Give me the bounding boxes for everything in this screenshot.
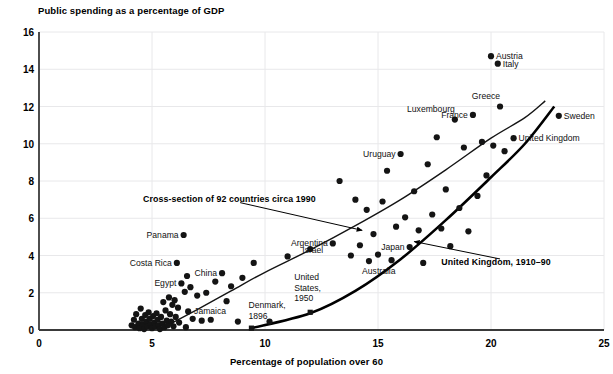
point-label-sweden: Sweden: [564, 111, 595, 121]
data-point: [167, 311, 173, 317]
point-label-china: China: [195, 268, 217, 278]
data-point: [190, 316, 196, 322]
data-point: [474, 193, 480, 199]
data-point: [166, 294, 172, 300]
point-label-uruguay: Uruguay: [363, 149, 395, 159]
data-point: [411, 188, 417, 194]
data-point: [133, 311, 139, 317]
point-label-greece: Greece: [472, 91, 500, 101]
point-label-france: France: [441, 110, 468, 120]
uk-marker: [308, 310, 313, 315]
data-point: [488, 53, 494, 59]
data-point: [178, 280, 184, 286]
data-point: [490, 143, 496, 149]
point-label-panama: Panama: [147, 230, 179, 240]
data-point: [384, 168, 390, 174]
data-point: [510, 135, 516, 141]
data-point: [336, 178, 342, 184]
annotation-uk: United Kingdom, 1910–90: [441, 257, 550, 268]
data-point: [208, 317, 214, 323]
point-label-japan: Japan: [381, 242, 404, 252]
data-point: [497, 103, 503, 109]
data-point: [398, 151, 404, 157]
data-point: [443, 186, 449, 192]
data-point: [420, 260, 426, 266]
data-point: [158, 314, 164, 320]
data-point: [239, 275, 245, 281]
point-label-united-kingdom: United Kingdom: [519, 133, 580, 143]
data-point: [348, 252, 354, 258]
annotation-cross-section: Cross-section of 92 countries circa 1990: [143, 194, 316, 205]
data-point: [199, 318, 205, 324]
data-point: [501, 148, 507, 154]
data-point: [456, 205, 462, 211]
data-point: [352, 197, 358, 203]
data-point: [212, 278, 218, 284]
data-point: [172, 297, 178, 303]
annotation-arrow-cross-section: [240, 203, 362, 231]
data-point: [556, 113, 562, 119]
data-point: [495, 61, 501, 67]
point-label-australia: Australia: [362, 266, 395, 276]
data-point: [184, 273, 190, 279]
point-label-costa-rica: Costa Rica: [130, 258, 172, 268]
data-point: [402, 214, 408, 220]
data-point: [176, 319, 182, 325]
data-point: [461, 144, 467, 150]
data-point: [194, 292, 200, 298]
data-point: [187, 284, 193, 290]
data-point: [434, 134, 440, 140]
data-point: [235, 319, 241, 325]
data-point: [375, 251, 381, 257]
data-point: [366, 258, 372, 264]
data-point: [364, 207, 370, 213]
data-point: [438, 225, 444, 231]
data-point: [285, 253, 291, 259]
data-point: [388, 257, 394, 263]
data-point: [175, 305, 181, 311]
data-point: [251, 260, 257, 266]
data-point: [183, 324, 189, 330]
data-point: [379, 198, 385, 204]
data-point: [228, 283, 234, 289]
data-point: [173, 314, 179, 320]
x-axis-title: Percentage of population over 60: [0, 356, 613, 367]
uk-marker: [249, 326, 254, 331]
data-point: [416, 227, 422, 233]
data-point: [465, 228, 471, 234]
data-point: [425, 161, 431, 167]
data-point: [479, 139, 485, 145]
point-label-denmark-1896: Denmark,1896: [248, 300, 285, 321]
data-point: [170, 323, 176, 329]
data-point: [203, 290, 209, 296]
data-point: [219, 270, 225, 276]
data-point: [182, 289, 188, 295]
chart-root: Public spending as a percentage of GDP 0…: [0, 0, 613, 374]
data-point: [370, 231, 376, 237]
data-point: [185, 308, 191, 314]
data-point: [357, 242, 363, 248]
point-label-italy: Italy: [503, 59, 519, 69]
data-point: [429, 211, 435, 217]
point-label-united-states-1950: UnitedStates,1950: [294, 273, 321, 305]
data-point: [407, 244, 413, 250]
data-point: [181, 232, 187, 238]
data-point: [483, 172, 489, 178]
data-point: [330, 240, 336, 246]
point-label-egypt: Egypt: [154, 278, 176, 288]
point-label-israel: Israel: [302, 245, 323, 255]
data-point: [223, 298, 229, 304]
data-point: [138, 305, 144, 311]
data-point: [470, 112, 476, 118]
data-point: [174, 260, 180, 266]
point-label-jamaica: Jamaica: [194, 306, 226, 316]
data-point: [160, 299, 166, 305]
data-point: [393, 224, 399, 230]
